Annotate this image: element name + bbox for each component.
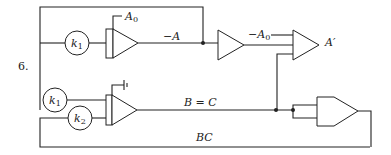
bc-label: BC [195,131,213,144]
amp4-triangle [112,95,137,125]
a0-input-wire [113,16,122,29]
logic-circuit-diagram: 6. k1 A0 −A −A0 A′ k1 k2 B = C BC [0,0,391,155]
wire [293,105,317,118]
gate-shape [317,97,358,126]
amp3-triangle [293,30,319,60]
b-eq-c-label: B = C [183,96,217,109]
amp4-input-box [106,95,112,125]
neg-a0-label: −A0 [248,28,270,42]
ground-wire [112,85,124,95]
junction-dot [201,41,205,45]
amp2-triangle [218,30,244,60]
junction-dot [274,108,278,112]
amp1-input-box [106,29,113,58]
amp1-triangle [113,29,138,58]
a0-label: A0 [124,10,138,24]
a-prime-label: A′ [324,36,336,49]
wire [358,111,371,147]
neg-a-label: −A [163,30,180,43]
wire [277,54,293,110]
figure-number: 6. [18,60,29,73]
